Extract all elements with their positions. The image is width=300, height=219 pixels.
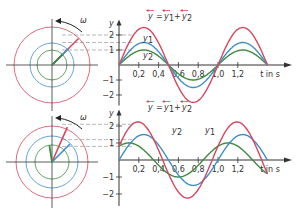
formula-part: = [156,12,163,21]
label-y2-sub: 2 [148,53,153,62]
y-tick-label: 1 [109,139,114,148]
panel-in-phase: ωy21−1−20,20,40,60,81,01,2t in sy1y2y=y1… [6,9,292,111]
rotation-arrow-icon [55,115,61,121]
y-tick-label: 2 [109,122,114,131]
y-tick-label: 1 [109,46,114,55]
formula-part: y [147,12,153,21]
omega-label: ω [80,16,87,25]
x-arrow-icon [284,63,292,68]
label-y1-sub: 1 [148,36,153,45]
x-tick-label: 0,2 [132,70,145,79]
diagram-canvas: ωy21−1−20,20,40,60,81,01,2t in sy1y2y=y1… [0,0,300,219]
label-y2-sub: 2 [177,128,182,137]
y-axis-label: y [108,19,114,28]
x-axis-label: t in s [260,165,280,174]
omega-label: ω [80,113,87,122]
formula-part: y [147,103,153,112]
x-tick-label: 1,2 [231,165,244,174]
y-tick-label: −2 [102,190,114,199]
x-tick-label: 1,2 [231,70,244,79]
phasor-y1 [52,144,70,162]
y-arrow-icon [117,110,122,116]
panel-phase-shifted: ωy21−1−20,20,40,60,81,01,2t in sy1y2y=y1… [6,100,292,208]
y-tick-label: −1 [102,173,114,182]
y-arrow-icon [117,20,122,26]
x-arrow-icon [284,158,292,163]
rotation-arc [58,21,82,32]
y-tick-label: −2 [102,91,114,100]
label-y1-sub: 1 [210,128,215,137]
superposition-diagram: ωy21−1−20,20,40,60,81,01,2t in sy1y2y=y1… [0,0,300,219]
formula-part: + [174,103,181,112]
phasor-y2 [52,54,63,65]
formula-part: 2 [187,14,192,23]
x-tick-label: 0,2 [132,165,145,174]
phasor-sum [52,127,67,162]
formula-part: = [156,103,163,112]
x-axis-label: t in s [260,70,280,79]
formula-part: + [174,12,181,21]
x-tick-label: 0,4 [152,70,165,79]
y-tick-label: 2 [109,31,114,40]
y-axis-label: y [108,109,114,118]
rotation-arrow-icon [55,18,61,24]
formula-part: 2 [187,105,192,114]
y-tick-label: −1 [102,76,114,85]
